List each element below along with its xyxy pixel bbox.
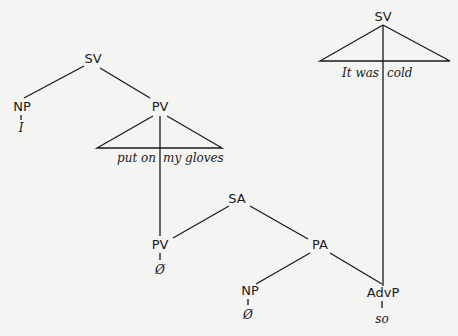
edge-sa-pv	[173, 206, 229, 238]
node-sv-right: SV	[374, 9, 391, 24]
node-sa: SA	[228, 191, 245, 206]
node-sv-left: SV	[84, 51, 101, 66]
word-so: so	[375, 312, 388, 326]
node-pv-upper: PV	[152, 99, 169, 114]
syntax-tree-diagram: SV NP I PV put on my gloves SV It was co…	[0, 0, 458, 336]
node-pa: PA	[312, 237, 328, 252]
words-my-gloves: my gloves	[163, 151, 224, 165]
edge-pa-np	[256, 253, 310, 284]
edge-sv-pv	[100, 68, 150, 98]
triangle-sv-right	[320, 25, 450, 61]
node-pv-lower: PV	[152, 237, 169, 252]
node-np-lower: NP	[241, 283, 259, 298]
word-null-np: Ø	[242, 308, 254, 322]
words-cold: cold	[387, 66, 413, 80]
node-np-subject: NP	[13, 99, 31, 114]
edge-pa-advp	[330, 253, 382, 284]
word-i: I	[18, 121, 24, 135]
edge-sv-np	[24, 66, 84, 98]
node-advp: AdvP	[367, 285, 400, 300]
words-it-was: It was	[341, 66, 379, 80]
word-null-pv: Ø	[154, 263, 166, 277]
edge-sa-pa	[250, 206, 308, 239]
words-put-on: put on	[117, 151, 156, 165]
